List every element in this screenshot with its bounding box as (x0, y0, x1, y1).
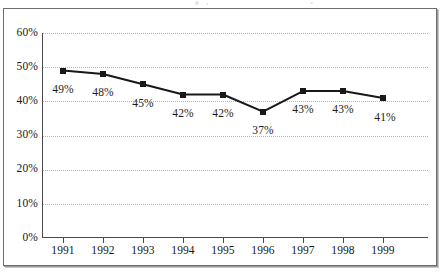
plot-area: 49% 48% 45% 42% 42% 37% 43% 43% 41% (42, 33, 428, 238)
x-tick-label-1993: 1993 (123, 244, 163, 256)
data-point-1993 (140, 81, 146, 87)
x-tick-label-1992: 1992 (83, 244, 123, 256)
series-line (42, 33, 428, 238)
y-tick-label-60: 60% (8, 26, 38, 38)
scan-artifact (206, 3, 208, 5)
data-label-1998: 43% (323, 103, 363, 115)
data-label-1999: 41% (365, 111, 405, 123)
x-tick-label-1995: 1995 (203, 244, 243, 256)
data-point-1997 (300, 88, 306, 94)
x-axis-tick-1991 (63, 238, 64, 243)
y-tick-label-0: 0% (8, 231, 38, 243)
x-tick-label-1991: 1991 (43, 244, 83, 256)
data-point-1994 (180, 92, 186, 98)
y-tick-label-20: 20% (8, 162, 38, 174)
data-label-1994: 42% (163, 107, 203, 119)
data-point-1991 (60, 68, 66, 74)
scan-artifact (195, 1, 199, 5)
y-tick-label-40: 40% (8, 94, 38, 106)
x-axis-tick-1993 (143, 238, 144, 243)
data-point-1992 (100, 71, 106, 77)
data-point-1998 (340, 88, 346, 94)
data-point-1995 (220, 92, 226, 98)
line-chart: 60% 50% 40% 30% 20% 10% 0% 1991 1992 199… (0, 0, 444, 275)
data-label-1997: 43% (283, 103, 323, 115)
x-axis-tick-1998 (343, 238, 344, 243)
x-tick-label-1998: 1998 (323, 244, 363, 256)
y-tick-label-10: 10% (8, 197, 38, 209)
x-tick-label-1996: 1996 (243, 244, 283, 256)
x-axis-tick-1997 (303, 238, 304, 243)
x-axis-tick-1999 (383, 238, 384, 243)
x-tick-label-1999: 1999 (363, 244, 403, 256)
data-label-1995: 42% (203, 107, 243, 119)
data-label-1996: 37% (243, 124, 283, 136)
y-tick-label-30: 30% (8, 128, 38, 140)
data-point-1996 (260, 109, 266, 115)
scan-artifact (310, 2, 313, 4)
data-label-1992: 48% (83, 86, 123, 98)
x-axis-tick-1992 (103, 238, 104, 243)
x-axis-tick-1996 (263, 238, 264, 243)
data-label-1993: 45% (123, 97, 163, 109)
x-axis-tick-1994 (183, 238, 184, 243)
data-point-1999 (380, 95, 386, 101)
x-axis-tick-1995 (223, 238, 224, 243)
y-tick-label-50: 50% (8, 60, 38, 72)
x-tick-label-1997: 1997 (283, 244, 323, 256)
x-tick-label-1994: 1994 (163, 244, 203, 256)
data-label-1991: 49% (43, 83, 83, 95)
